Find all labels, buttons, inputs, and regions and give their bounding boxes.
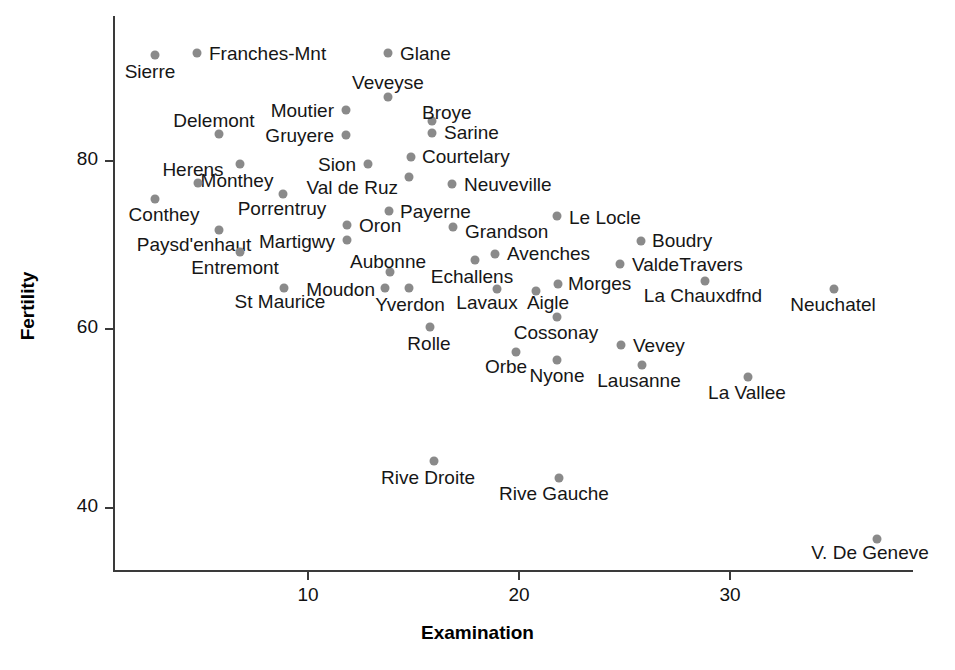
data-point-label: Le Locle	[569, 207, 641, 229]
data-point	[236, 160, 245, 169]
data-point-label: La Vallee	[708, 382, 786, 404]
data-point-label: Grandson	[465, 221, 548, 243]
data-point	[553, 313, 562, 322]
data-point-label: Conthey	[129, 204, 200, 226]
data-point-label: Boudry	[652, 230, 712, 252]
data-point-label: Courtelary	[422, 146, 510, 168]
data-point-label: Payerne	[400, 201, 471, 223]
y-axis-line	[113, 16, 115, 572]
data-point	[554, 280, 563, 289]
data-point	[151, 51, 160, 60]
data-point-label: Franches-Mnt	[209, 43, 326, 65]
data-point	[553, 356, 562, 365]
data-point	[342, 106, 351, 115]
data-point-label: Rive Gauche	[499, 483, 609, 505]
data-point	[637, 237, 646, 246]
data-point-label: Paysd'enhaut	[137, 234, 252, 256]
data-point-label: Neuveville	[464, 174, 552, 196]
data-point-label: Martigwy	[259, 231, 335, 253]
data-point-label: Yverdon	[375, 294, 445, 316]
data-point	[555, 474, 564, 483]
data-point-label: Lausanne	[597, 370, 680, 392]
data-point-label: Oron	[359, 215, 401, 237]
data-point	[428, 129, 437, 138]
data-point-label: Glane	[400, 43, 451, 65]
data-point	[343, 236, 352, 245]
data-point-label: V. De Geneve	[811, 542, 929, 564]
data-point	[830, 285, 839, 294]
y-axis-title: Fertility	[17, 256, 39, 356]
data-point	[638, 361, 647, 370]
data-point	[405, 173, 414, 182]
data-point	[236, 248, 245, 257]
data-point-label: Cossonay	[514, 322, 599, 344]
data-point	[449, 223, 458, 232]
y-tick-mark	[105, 507, 113, 509]
y-tick-label: 80	[38, 148, 98, 170]
data-point-label: Neuchatel	[790, 294, 876, 316]
data-point	[193, 49, 202, 58]
data-point	[405, 284, 414, 293]
x-axis-title: Examination	[0, 622, 955, 644]
x-axis-line	[113, 570, 913, 572]
x-tick-label: 10	[278, 584, 338, 606]
data-point	[151, 195, 160, 204]
y-tick-label: 40	[38, 495, 98, 517]
data-point-label: Gruyere	[265, 125, 334, 147]
x-tick-mark	[307, 572, 309, 580]
data-point	[448, 180, 457, 189]
data-point	[381, 284, 390, 293]
data-point-label: ValdeTravers	[632, 254, 743, 276]
data-point-label: Moutier	[271, 100, 334, 122]
x-tick-label: 30	[700, 584, 760, 606]
data-point-label: Lavaux	[456, 292, 517, 314]
data-point	[364, 160, 373, 169]
data-point	[553, 212, 562, 221]
data-point-label: Veveyse	[352, 72, 424, 94]
data-point	[471, 256, 480, 265]
data-point	[342, 131, 351, 140]
x-tick-label: 20	[489, 584, 549, 606]
data-point	[430, 457, 439, 466]
data-point-label: Sarine	[444, 122, 499, 144]
data-point	[491, 250, 500, 259]
data-point	[407, 153, 416, 162]
y-tick-label: 60	[38, 316, 98, 338]
y-tick-mark	[105, 328, 113, 330]
data-point-label: Orbe	[485, 356, 527, 378]
data-point-label: Rive Droite	[381, 467, 475, 489]
data-point-label: Entremont	[191, 257, 279, 279]
data-point-label: Echallens	[431, 266, 513, 288]
data-point-label: Broye	[422, 102, 472, 124]
data-point-label: Val de Ruz	[306, 177, 398, 199]
data-point-label: Avenches	[507, 243, 590, 265]
data-point	[617, 341, 626, 350]
y-tick-mark	[105, 160, 113, 162]
data-point-label: Rolle	[407, 333, 450, 355]
x-tick-mark	[729, 572, 731, 580]
data-point-label: Sion	[318, 154, 356, 176]
data-point-label: Aigle	[527, 292, 569, 314]
data-point	[343, 221, 352, 230]
data-point	[426, 323, 435, 332]
data-point-label: Herens	[162, 159, 223, 181]
data-point-label: Morges	[568, 273, 631, 295]
data-point	[384, 49, 393, 58]
data-point-label: La Chauxdfnd	[644, 285, 762, 307]
data-point-label: Delemont	[173, 110, 254, 132]
data-point	[744, 373, 753, 382]
data-point-label: Nyone	[530, 365, 585, 387]
data-point-label: Porrentruy	[238, 198, 327, 220]
scatter-plot-figure: 406080102030 SierreFranches-MntGlaneVeve…	[0, 0, 955, 670]
data-point	[616, 260, 625, 269]
x-tick-mark	[518, 572, 520, 580]
data-point-label: Moudon	[306, 279, 375, 301]
data-point-label: Aubonne	[350, 251, 426, 273]
data-point-label: Sierre	[125, 61, 176, 83]
data-point-label: Vevey	[633, 335, 685, 357]
